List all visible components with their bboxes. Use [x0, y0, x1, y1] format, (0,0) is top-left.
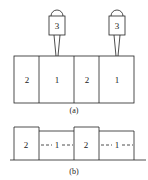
- probe-left: [49, 10, 65, 56]
- probe-right-label: 3: [115, 21, 120, 31]
- panel-b-labels: 2 1 2 1 (b): [24, 140, 120, 176]
- block-b-2-label: 1: [55, 140, 60, 150]
- caption-a: (a): [70, 106, 79, 115]
- block-a-2-label: 1: [55, 75, 60, 85]
- panel-b: [10, 127, 146, 160]
- block-b-3-label: 2: [84, 140, 89, 150]
- block-a-3-label: 2: [85, 75, 90, 85]
- block-b-1-label: 2: [24, 140, 29, 150]
- probe-left-label: 3: [55, 21, 60, 31]
- block-a-1-label: 2: [25, 75, 30, 85]
- probe-right: [109, 10, 125, 56]
- caption-b: (b): [69, 167, 79, 176]
- block-a-4-label: 1: [115, 75, 120, 85]
- block-b-4-label: 1: [115, 140, 120, 150]
- diagram: 3 3 2 1 2 1 (a) 2 1 2 1 (b): [0, 0, 148, 180]
